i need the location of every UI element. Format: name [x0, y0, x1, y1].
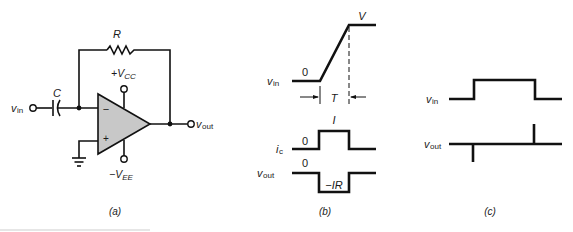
vin-label: vin [11, 102, 23, 115]
vout-label-c: vout [424, 138, 442, 151]
caption-b: (b) [319, 206, 331, 217]
vcc-terminal-icon [121, 86, 127, 92]
vin-terminal-icon [30, 105, 36, 111]
vee-label: −VEE [109, 168, 133, 182]
ground-wire [79, 141, 98, 158]
v-level-label: V [358, 10, 367, 22]
vout-label: vout [196, 118, 214, 131]
i-level-label: I [332, 114, 335, 126]
vin-step-waveform [449, 80, 562, 99]
inverting-input-sign: − [103, 103, 109, 115]
page-edge-rule [0, 229, 150, 231]
differentiator-figure: R C vin vout +VCC −VEE − + (a) V 0 vin T… [0, 0, 573, 232]
panel-c-waveforms: vin vout (c) [424, 80, 562, 217]
resistor-icon [107, 46, 137, 54]
vout-zero-label: 0 [302, 157, 308, 169]
ground-icon [72, 158, 86, 166]
panel-b-waveforms: V 0 vin T I 0 ic 0 vout −IR (b) [257, 10, 376, 217]
caption-c: (c) [484, 206, 496, 217]
vin-zero-label: 0 [302, 66, 308, 78]
resistor-label: R [113, 28, 121, 40]
vout-label-b: vout [257, 167, 275, 180]
t-right-arrowhead-icon [350, 95, 356, 99]
vin-label-c: vin [426, 93, 438, 106]
vee-terminal-icon [121, 156, 127, 162]
capacitor-label: C [53, 87, 61, 99]
ic-label: ic [276, 143, 283, 156]
t-left-arrowhead-icon [313, 95, 319, 99]
ic-zero-label: 0 [302, 135, 308, 147]
feedback-right-wire [137, 50, 170, 124]
vcc-label: +VCC [111, 67, 136, 81]
t-duration-label: T [331, 92, 339, 104]
vout-terminal-icon [188, 121, 194, 127]
panel-a-circuit: R C vin vout +VCC −VEE − + (a) [11, 28, 214, 217]
caption-a: (a) [109, 206, 121, 217]
output-node-icon [168, 122, 173, 127]
noninverting-input-sign: + [103, 133, 109, 144]
minus-ir-label: −IR [325, 179, 342, 191]
vin-label-b: vin [267, 75, 279, 88]
